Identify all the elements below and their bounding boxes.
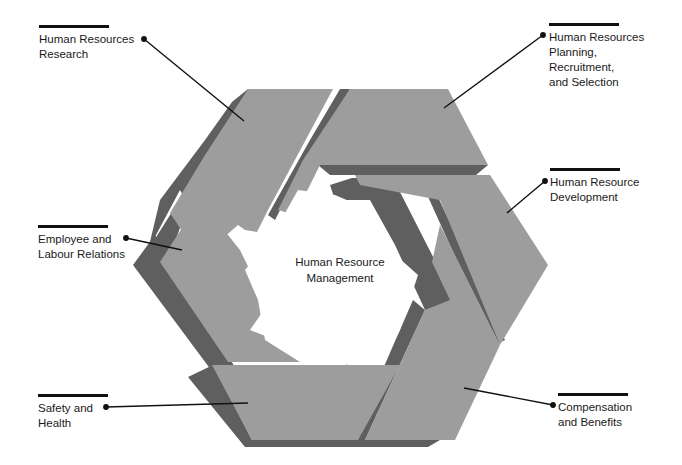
- label-line: and Selection: [549, 75, 644, 90]
- label-safety-health: Safety and Health: [38, 394, 108, 431]
- label-line: and Benefits: [558, 415, 632, 430]
- leader-dot-research: [142, 37, 146, 41]
- segment-planning-bottom-shadow: [318, 165, 488, 175]
- label-hr-development: Human Resource Development: [550, 168, 639, 205]
- label-bar: [39, 25, 109, 28]
- center-label: Human Resource Management: [270, 254, 410, 286]
- leader-dot-development: [543, 179, 547, 183]
- label-line: Compensation: [558, 400, 632, 415]
- label-hr-research: Human Resources Research: [39, 25, 134, 62]
- label-line: Health: [38, 416, 108, 431]
- label-bar: [549, 23, 619, 26]
- label-line: Recruitment,: [549, 60, 644, 75]
- leader-dot-compensation: [551, 403, 555, 407]
- label-bar: [38, 225, 108, 228]
- leader-dot-planning: [541, 33, 545, 37]
- leader-compensation: [464, 388, 553, 405]
- label-line: Human Resource: [550, 175, 639, 190]
- label-line: Development: [550, 190, 639, 205]
- center-label-line: Management: [270, 270, 410, 286]
- label-employee-relations: Employee and Labour Relations: [38, 225, 125, 262]
- center-label-line: Human Resource: [270, 254, 410, 270]
- label-line: Safety and: [38, 401, 108, 416]
- label-compensation-benefits: Compensation and Benefits: [558, 393, 632, 430]
- label-bar: [558, 393, 628, 396]
- label-bar: [38, 394, 108, 397]
- leader-planning: [444, 35, 543, 108]
- label-line: Employee and: [38, 232, 125, 247]
- label-line: Human Resources: [549, 30, 644, 45]
- label-line: Labour Relations: [38, 247, 125, 262]
- label-hr-planning: Human Resources Planning, Recruitment, a…: [549, 23, 644, 90]
- label-line: Human Resources: [39, 32, 134, 47]
- label-line: Planning,: [549, 45, 644, 60]
- label-bar: [550, 168, 620, 171]
- leader-development: [507, 181, 545, 213]
- label-line: Research: [39, 47, 134, 62]
- leader-research: [144, 39, 244, 121]
